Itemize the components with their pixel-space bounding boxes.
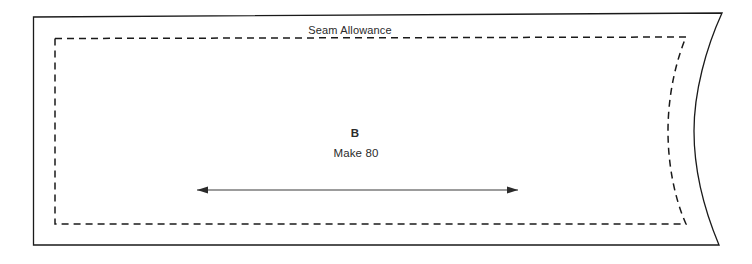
make-quantity-label: Make 80 (333, 147, 378, 159)
pattern-piece-drawing: Seam Allowance B Make 80 (0, 0, 752, 264)
seam-allowance-label: Seam Allowance (308, 24, 391, 36)
cutting-line (34, 13, 723, 245)
pattern-sheet: Seam Allowance B Make 80 (0, 0, 752, 264)
piece-letter-label: B (351, 127, 360, 139)
